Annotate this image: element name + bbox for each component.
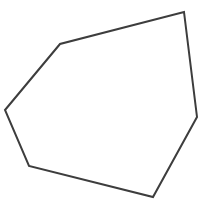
drawing-canvas xyxy=(0,0,203,219)
shape-canvas-svg xyxy=(0,0,203,219)
